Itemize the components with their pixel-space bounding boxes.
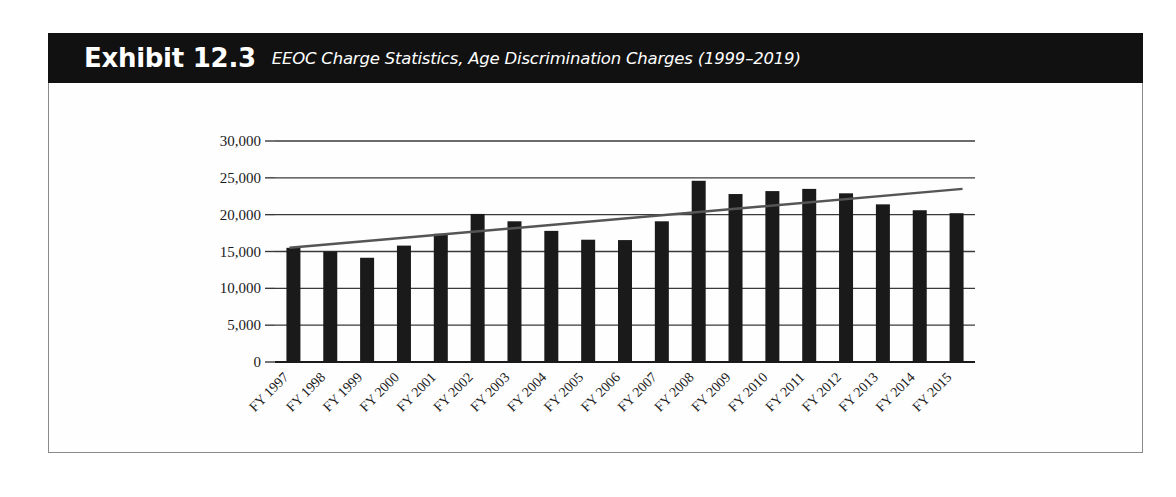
exhibit-frame (48, 83, 1143, 453)
exhibit-title-bar: Exhibit 12.3 EEOC Charge Statistics, Age… (48, 33, 1143, 83)
exhibit-figure: Exhibit 12.3 EEOC Charge Statistics, Age… (0, 0, 1176, 497)
exhibit-label: Exhibit (84, 43, 184, 73)
exhibit-subtitle: EEOC Charge Statistics, Age Discriminati… (272, 49, 801, 68)
exhibit-number: 12.3 (193, 43, 256, 73)
